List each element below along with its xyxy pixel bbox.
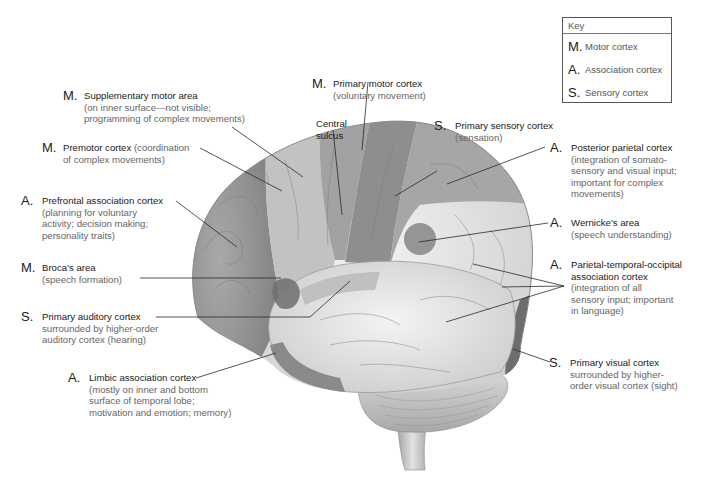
- legend-label: Sensory cortex: [585, 87, 648, 98]
- legend-item-association: A. Association cortex: [563, 57, 671, 80]
- label-desc: surrounded by higher-: [570, 369, 678, 381]
- label-prefrontal-association-cortex: A. Prefrontal association cortex (planni…: [42, 195, 163, 241]
- label-desc: movements): [571, 188, 677, 200]
- label-desc: (speech formation): [42, 274, 122, 286]
- label-code: M.: [312, 77, 326, 90]
- label-desc: (coordination: [131, 142, 189, 153]
- label-desc: (mostly on inner and bottom: [89, 384, 231, 396]
- label-desc: in language): [571, 305, 682, 317]
- label-code: A.: [550, 216, 562, 229]
- legend-label: Motor cortex: [585, 41, 638, 52]
- label-code: M.: [42, 141, 56, 154]
- label-desc: (sensation): [455, 132, 553, 144]
- label-title: Primary auditory cortex: [42, 311, 158, 323]
- label-desc: (on inner surface—not visible;: [84, 102, 245, 114]
- label-title: Broca’s area: [42, 262, 122, 274]
- label-desc: (voluntary movement): [333, 90, 426, 102]
- label-posterior-parietal-cortex: A. Posterior parietal cortex (integratio…: [571, 142, 677, 200]
- legend-code: M.: [568, 39, 582, 54]
- label-code: S.: [21, 310, 33, 323]
- label-primary-auditory-cortex: S. Primary auditory cortex surrounded by…: [42, 311, 158, 346]
- label-title: Posterior parietal cortex: [571, 142, 677, 154]
- label-title: Parietal-temporal-occipital: [571, 259, 682, 271]
- label-desc: (planning for voluntary: [42, 207, 163, 219]
- label-limbic-association-cortex: A. Limbic association cortex (mostly on …: [89, 372, 231, 418]
- label-desc: important for complex: [571, 177, 677, 189]
- label-primary-sensory-cortex: S. Primary sensory cortex (sensation): [455, 120, 553, 143]
- label-code: S.: [434, 119, 446, 132]
- label-code: A.: [550, 141, 562, 154]
- prefrontal-region: [180, 110, 279, 410]
- label-code: M.: [21, 261, 35, 274]
- label-title: Central: [316, 118, 347, 130]
- label-title: Primary sensory cortex: [455, 120, 553, 132]
- label-title: Premotor cortex: [63, 142, 131, 153]
- label-title: Primary visual cortex: [570, 357, 678, 369]
- label-code: A.: [68, 371, 80, 384]
- label-desc: of complex movements): [63, 154, 189, 166]
- label-desc: (integration of all: [571, 282, 682, 294]
- label-desc: (speech understanding): [571, 229, 672, 241]
- label-desc: personality traits): [42, 230, 163, 242]
- legend-code: A.: [568, 62, 580, 77]
- label-title: Wernicke’s area: [571, 217, 672, 229]
- label-code: S.: [549, 356, 561, 369]
- label-code: A.: [21, 194, 33, 207]
- label-title: Limbic association cortex: [89, 372, 231, 384]
- wernicke-region: [404, 223, 436, 255]
- legend-code: S.: [568, 85, 580, 100]
- label-title: Prefrontal association cortex: [42, 195, 163, 207]
- label-desc: order visual cortex (sight): [570, 380, 678, 392]
- label-desc: sensory and visual input;: [571, 165, 677, 177]
- label-wernickes-area: A. Wernicke’s area (speech understanding…: [571, 217, 672, 240]
- label-code: A.: [550, 258, 562, 271]
- label-desc: activity; decision making;: [42, 218, 163, 230]
- label-primary-visual-cortex: S. Primary visual cortex surrounded by h…: [570, 357, 678, 392]
- legend-title: Key: [563, 18, 671, 34]
- label-brocas-area: M. Broca’s area (speech formation): [42, 262, 122, 285]
- legend-item-motor: M. Motor cortex: [563, 34, 671, 57]
- label-desc: surrounded by higher-order: [42, 323, 158, 335]
- label-supplementary-motor-area: M. Supplementary motor area (on inner su…: [84, 90, 245, 125]
- label-premotor-cortex: M. Premotor cortex (coordination of comp…: [63, 142, 189, 165]
- label-title: Supplementary motor area: [84, 90, 245, 102]
- label-primary-motor-cortex: M. Primary motor cortex (voluntary movem…: [333, 78, 426, 101]
- label-title: association cortex: [571, 271, 682, 283]
- legend-item-sensory: S. Sensory cortex: [563, 80, 671, 103]
- label-code: M.: [63, 89, 77, 102]
- label-title: Primary motor cortex: [333, 78, 426, 90]
- label-desc: (integration of somato-: [571, 154, 677, 166]
- legend-label: Association cortex: [585, 64, 662, 75]
- label-central-sulcus: Central sulcus: [316, 118, 347, 141]
- label-desc: motivation and emotion; memory): [89, 407, 231, 419]
- legend-key: Key M. Motor cortex A. Association corte…: [562, 17, 672, 103]
- label-title: sulcus: [316, 130, 347, 142]
- label-desc: programming of complex movements): [84, 113, 245, 125]
- label-desc: sensory input; important: [571, 294, 682, 306]
- label-desc: auditory cortex (hearing): [42, 334, 158, 346]
- label-parietal-temporal-occipital-cortex: A. Parietal-temporal-occipital associati…: [571, 259, 682, 317]
- label-desc: surface of temporal lobe;: [89, 395, 231, 407]
